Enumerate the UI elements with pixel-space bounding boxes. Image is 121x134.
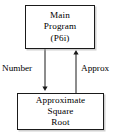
- data-flow-diagram: Main Program (P6i) Approximate Square Ro…: [0, 0, 121, 134]
- node-main-program: Main Program (P6i): [25, 5, 95, 49]
- node-approximate-square-root: Approximate Square Root: [17, 93, 104, 130]
- node-approximate-square-root-line-3: Root: [18, 117, 103, 128]
- node-approximate-square-root-line-2: Square: [18, 106, 103, 117]
- edge-label-approx: Approx: [81, 63, 109, 74]
- node-main-program-line-2: Program: [26, 21, 94, 32]
- edge-label-number: Number: [2, 63, 32, 74]
- node-main-program-line-3: (P6i): [26, 33, 94, 44]
- node-main-program-line-1: Main: [26, 10, 94, 21]
- node-approximate-square-root-line-1: Approximate: [18, 95, 103, 106]
